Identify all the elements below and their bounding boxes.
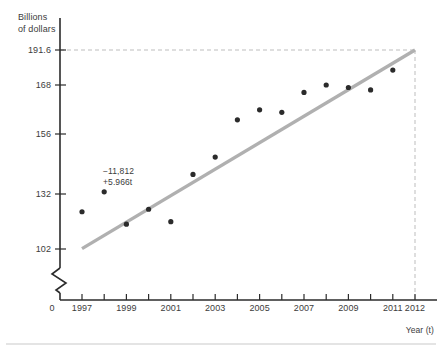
chart-plot-area [0,0,442,355]
chart-figure: Billionsof dollars 191.6 168 156 132 102… [0,0,442,355]
data-point [102,189,107,194]
x-tick-label-2007: 2007 [287,303,321,314]
regression-equation-annotation: −11,812+5.966t [103,166,134,188]
x-tick-label-2005: 2005 [243,303,277,314]
data-point [124,222,129,227]
data-point [235,117,240,122]
data-point [301,90,306,95]
x-tick-label-2003: 2003 [198,303,232,314]
y-axis-title: Billionsof dollars [18,12,56,35]
x-tick-label-2009: 2009 [331,303,365,314]
x-axis-title: Year (t) [406,325,434,336]
y-tick-label-156: 156 [11,129,51,140]
trend-line [82,50,415,249]
data-point [346,85,351,90]
y-tick-label-102: 102 [11,244,51,255]
data-point [213,154,218,159]
axis-break-zigzag [52,268,66,293]
y-axis-title-line2: of dollars [18,24,56,34]
regression-equation-line1: −11,812 [103,166,134,176]
data-point [368,87,373,92]
data-point [324,82,329,87]
y-tick-label-191_6: 191.6 [11,45,51,56]
data-point [190,172,195,177]
x-tick-marks [82,294,415,300]
data-point [257,107,262,112]
y-tick-label-168: 168 [11,80,51,91]
data-point [168,219,173,224]
data-point [390,67,395,72]
x-tick-label-2012: 2012 [398,303,432,314]
x-tick-label-1999: 1999 [109,303,143,314]
y-tick-label-132: 132 [11,189,51,200]
data-point [279,110,284,115]
x-tick-label-2001: 2001 [154,303,188,314]
data-point [146,207,151,212]
regression-equation-line2: +5.966t [103,177,132,187]
x-tick-label-1997: 1997 [65,303,99,314]
y-axis-title-line1: Billions [18,12,47,22]
origin-label: 0 [44,303,60,314]
data-point [79,209,84,214]
